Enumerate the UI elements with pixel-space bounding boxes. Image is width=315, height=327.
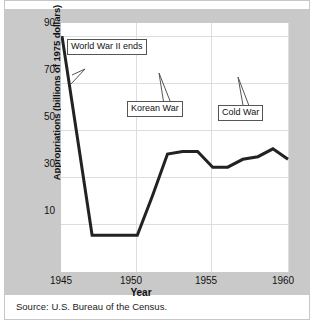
chart-panel: Appropriations (billions of 1975 dollars…	[5, 9, 309, 295]
x-tick-label-1960: 1960	[263, 275, 303, 286]
gridlines-horizontal	[61, 37, 289, 225]
y-tick-label-90: 90	[29, 17, 55, 28]
y-tick-label-70: 70	[29, 64, 55, 75]
y-tick-label-30: 30	[29, 158, 55, 169]
x-tick-label-1945: 1945	[41, 275, 81, 286]
annotation-cold-war: Cold War	[218, 105, 263, 121]
annotation-korean-war: Korean War	[127, 101, 183, 117]
x-tick-label-1955: 1955	[186, 275, 226, 286]
data-line-appropriations	[62, 36, 288, 235]
leader-line-world-war-ii-ends-2	[72, 69, 85, 75]
y-tick-label-10: 10	[29, 205, 55, 216]
x-tick-label-1950: 1950	[111, 275, 151, 286]
source-note: Source: U.S. Bureau of the Census.	[16, 301, 167, 312]
line-chart-svg	[61, 23, 289, 272]
figure-container: Appropriations (billions of 1975 dollars…	[0, 0, 315, 327]
annotation-world-war-ii-ends: World War II ends	[67, 39, 147, 55]
gridlines-vertical	[137, 23, 289, 272]
y-tick-label-50: 50	[29, 111, 55, 122]
source-bar: Source: U.S. Bureau of the Census.	[5, 296, 309, 319]
plot-area: World War II ends Korean War Cold War	[61, 23, 289, 272]
leader-line-world-war-ii-ends	[71, 69, 85, 84]
